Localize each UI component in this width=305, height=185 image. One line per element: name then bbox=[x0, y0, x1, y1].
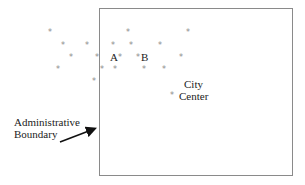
spatial-diagram: ******************** A B City Center Adm… bbox=[0, 0, 305, 185]
arrow-icon bbox=[0, 0, 305, 185]
